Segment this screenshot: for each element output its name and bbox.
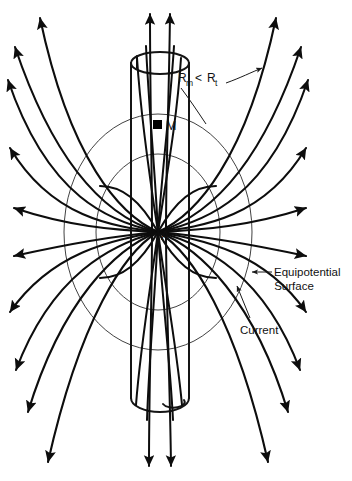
- ratio-operator-label: <: [195, 71, 202, 85]
- field-line-ul-2: [15, 47, 158, 232]
- field-line-ul-3: [8, 80, 158, 232]
- diagram-labels: A M R m < R t Equipotential Surface Curr…: [161, 71, 341, 336]
- field-line-ll-2: [16, 232, 158, 370]
- callout-leaders: [181, 68, 272, 318]
- field-line-ur-3: [158, 80, 308, 232]
- ratio-leader-line: [226, 68, 262, 83]
- field-line-lobe-ul: [100, 186, 158, 232]
- current-label: Current: [240, 324, 279, 336]
- ratio-t-subscript-label: t: [215, 78, 218, 88]
- field-line-lr-2: [158, 232, 300, 370]
- equipotential-label-line1: Equipotential: [274, 266, 341, 278]
- equipotential-label-line2: Surface: [274, 280, 314, 292]
- ratio-expression-group: R m < R t: [178, 71, 218, 88]
- point-m-label: M: [166, 119, 176, 133]
- point-a-label: A: [161, 229, 170, 243]
- ratio-m-subscript-label: m: [186, 78, 193, 88]
- field-diagram-svg: A M R m < R t Equipotential Surface Curr…: [0, 0, 352, 481]
- point-m-marker: [153, 120, 162, 129]
- field-diagram-container: A M R m < R t Equipotential Surface Curr…: [0, 0, 352, 481]
- cylinder-bottom-cap: [131, 398, 189, 412]
